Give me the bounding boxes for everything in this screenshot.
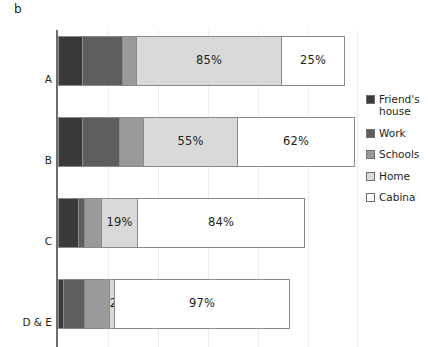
bar-segment-home: 55% [143,117,237,167]
legend-item-work[interactable]: Work [366,127,428,139]
bar-segment-schools [119,117,143,167]
bar-segment-friends-house [58,117,82,167]
plot-area: 85% 25% 55% 62% 19% [58,30,358,347]
data-label-home-a: 85% [196,55,222,67]
category-label-de: D & E [22,317,52,328]
legend-swatch-friends-house [366,95,375,104]
legend-label-cabina: Cabina [379,191,415,203]
data-label-cabina-b: 62% [283,136,309,148]
data-label-home-c: 19% [107,217,133,229]
category-label-a: A [45,74,52,85]
bar-group-c: 19% 84% [58,198,305,248]
panel-letter: b [14,3,22,15]
category-label-c: C [45,236,52,247]
legend-swatch-work [366,129,375,138]
data-label-cabina-c: 84% [208,217,234,229]
bar-group-b: 55% 62% [58,117,355,167]
legend-label-home: Home [379,170,410,182]
bar-segment-schools [122,36,136,86]
bar-segment-friends-house [58,36,82,86]
bar-group-de: 2% 97% [58,279,290,329]
legend-item-schools[interactable]: Schools [366,148,428,160]
bar-segment-schools [84,198,101,248]
bar-segment-cabina: 84% [137,198,305,248]
bar-segment-cabina: 97% [114,279,290,329]
legend-swatch-home [366,172,375,181]
category-label-b: B [45,155,52,166]
bar-segment-work [63,279,84,329]
legend-swatch-schools [366,150,375,159]
bar-segment-home: 85% [136,36,281,86]
bar-segment-cabina: 62% [237,117,355,167]
legend-item-friends-house[interactable]: Friend's house [366,93,428,118]
bar-group-a: 85% 25% [58,36,345,86]
legend-item-home[interactable]: Home [366,170,428,182]
legend-label-schools: Schools [379,148,419,160]
data-label-cabina-a: 25% [300,55,326,67]
bar-segment-home: 19% [101,198,137,248]
legend-swatch-cabina [366,193,375,202]
data-label-home-b: 55% [178,136,204,148]
bar-segment-work [82,117,119,167]
bar-segment-schools [84,279,109,329]
data-label-cabina-de: 97% [189,298,215,310]
bar-segment-work [82,36,122,86]
category-axis: A B C D & E [0,30,52,347]
chart-legend: Friend's house Work Schools Home Cabina [366,93,428,212]
legend-label-friends-house: Friend's house [379,93,428,118]
gridline [357,30,358,347]
legend-label-work: Work [379,127,406,139]
bar-segment-cabina: 25% [281,36,345,86]
legend-item-cabina[interactable]: Cabina [366,191,428,203]
bar-segment-friends-house [58,198,78,248]
